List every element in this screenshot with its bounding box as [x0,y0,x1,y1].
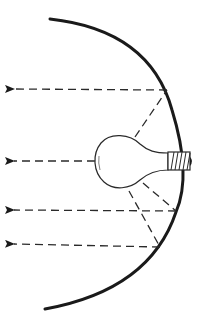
diagram-canvas [0,0,214,325]
socket-contact [190,157,192,166]
light-bulb [95,136,168,188]
ray-3 [14,183,176,211]
ray-4 [14,191,160,247]
bulb-socket [168,152,192,170]
ray-1 [14,89,167,137]
reflector-diagram: Light bulb with curved reflector [0,0,214,325]
